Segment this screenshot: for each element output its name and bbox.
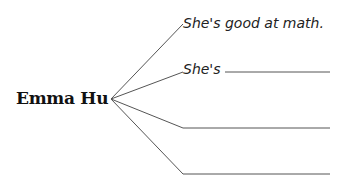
branch-line-2 (111, 72, 183, 99)
branch-text-1: She's good at math. (183, 15, 324, 31)
branch-line-3 (111, 99, 183, 128)
branch-line-1 (111, 24, 183, 99)
word-web-diagram: Emma Hu She's good at math. She's (0, 0, 346, 187)
center-label: Emma Hu (16, 88, 108, 108)
branch-line-4 (111, 99, 183, 174)
branch-text-2: She's (183, 61, 221, 77)
